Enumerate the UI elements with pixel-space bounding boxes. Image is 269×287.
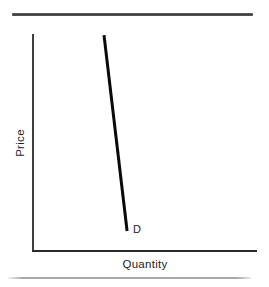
bottom-divider bbox=[8, 277, 251, 279]
x-axis-label: Quantity bbox=[122, 258, 167, 270]
y-axis-label: Price bbox=[14, 129, 26, 157]
plot-area bbox=[0, 0, 269, 287]
demand-curve bbox=[104, 35, 127, 231]
demand-curve-chart: Price Quantity D bbox=[0, 0, 269, 287]
demand-curve-label: D bbox=[133, 223, 141, 235]
